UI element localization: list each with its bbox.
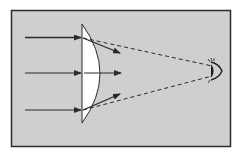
diagram-panel: [12, 11, 231, 147]
lens-diagram: [0, 0, 242, 154]
diagram-stage: [0, 0, 242, 154]
